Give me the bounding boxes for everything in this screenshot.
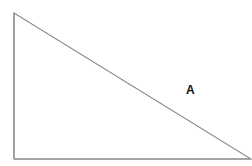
triangle-diagram xyxy=(0,0,252,166)
triangle-label-a: A xyxy=(186,84,195,96)
right-triangle-shape xyxy=(14,13,251,159)
